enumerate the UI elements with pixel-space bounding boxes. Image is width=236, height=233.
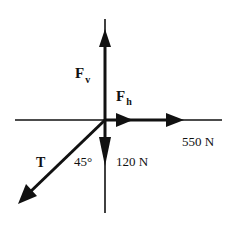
angle-label: 45° (74, 154, 92, 169)
120n-label: 120 N (116, 154, 149, 169)
550n-label: 550 N (182, 134, 215, 149)
fv-arrowhead-icon (99, 29, 111, 47)
force-diagram: Fv Fh 550 N T 45° 120 N (0, 0, 236, 233)
fh-arrowhead-icon (116, 113, 133, 127)
120n-arrowhead-icon (99, 137, 111, 166)
tension-label: T (36, 155, 46, 170)
fh-label: Fh (116, 88, 132, 107)
fv-label: Fv (75, 65, 90, 85)
550n-arrowhead-icon (166, 113, 184, 127)
